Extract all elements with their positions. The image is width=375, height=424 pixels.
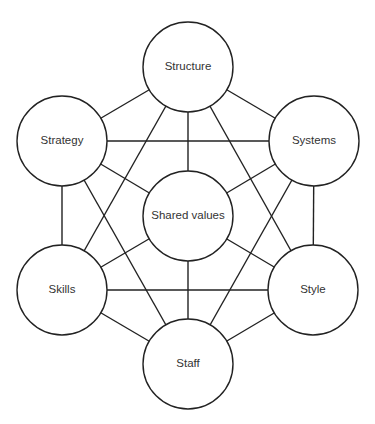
node-label: Shared values	[151, 209, 225, 221]
node-label: Staff	[176, 357, 200, 369]
seven-s-diagram: StructureStrategySystemsShared valuesSki…	[0, 0, 375, 424]
node-label: Style	[300, 283, 326, 295]
element-circles: StructureStrategySystemsShared valuesSki…	[17, 22, 359, 409]
node-systems: Systems	[269, 96, 359, 186]
node-label: Strategy	[41, 134, 84, 146]
node-label: Skills	[49, 283, 76, 295]
node-shared: Shared values	[143, 171, 233, 261]
node-skills: Skills	[17, 245, 107, 335]
node-strategy: Strategy	[17, 96, 107, 186]
node-label: Systems	[292, 134, 336, 146]
node-staff: Staff	[143, 319, 233, 409]
node-style: Style	[268, 245, 358, 335]
node-label: Structure	[165, 60, 212, 72]
node-structure: Structure	[143, 22, 233, 112]
